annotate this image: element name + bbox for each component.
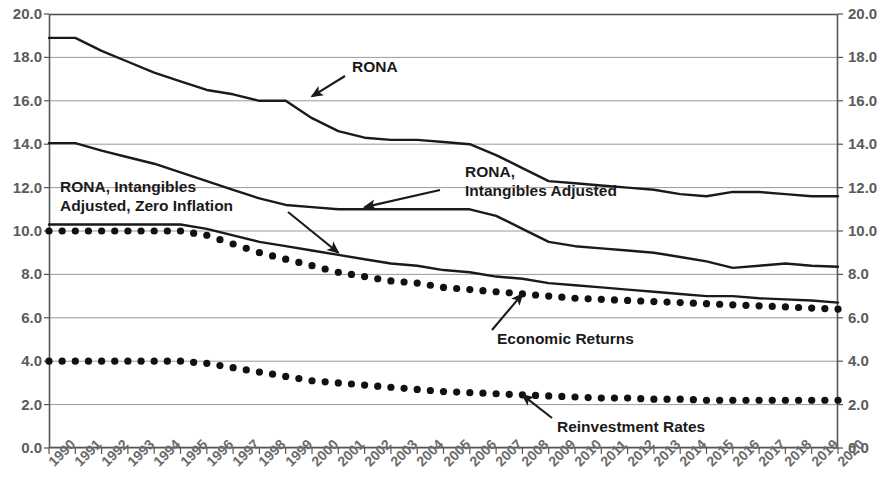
annotation-arrows bbox=[288, 76, 552, 418]
data-point bbox=[716, 397, 723, 404]
y-axis-left-tick-label: 10.0 bbox=[0, 222, 42, 239]
y-axis-right-tick-label: 18.0 bbox=[848, 48, 886, 65]
data-point bbox=[361, 273, 368, 280]
data-point bbox=[466, 286, 473, 293]
y-axis-right-tick-label: 20.0 bbox=[848, 5, 886, 22]
data-point bbox=[703, 300, 710, 307]
data-point bbox=[493, 288, 500, 295]
data-point bbox=[440, 284, 447, 291]
y-axis-left-tick-label: 18.0 bbox=[0, 48, 42, 65]
data-point bbox=[308, 377, 315, 384]
data-point bbox=[545, 293, 552, 300]
data-point bbox=[216, 236, 223, 243]
data-point bbox=[269, 371, 276, 378]
data-point bbox=[624, 394, 631, 401]
data-point bbox=[821, 397, 828, 404]
data-point bbox=[85, 227, 92, 234]
y-axis-left-tick-label: 12.0 bbox=[0, 179, 42, 196]
data-point bbox=[795, 304, 802, 311]
data-point bbox=[624, 297, 631, 304]
data-point bbox=[795, 397, 802, 404]
y-axis-right-tick-label: 8.0 bbox=[848, 265, 886, 282]
data-point bbox=[400, 278, 407, 285]
data-point bbox=[177, 227, 184, 234]
data-point bbox=[729, 397, 736, 404]
data-point bbox=[137, 358, 144, 365]
data-point bbox=[387, 277, 394, 284]
data-point bbox=[124, 358, 131, 365]
y-axis-left-tick-label: 6.0 bbox=[0, 309, 42, 326]
data-point bbox=[124, 227, 131, 234]
data-point bbox=[769, 303, 776, 310]
data-point bbox=[808, 397, 815, 404]
data-point bbox=[506, 391, 513, 398]
data-point bbox=[216, 362, 223, 369]
data-point bbox=[637, 395, 644, 402]
data-point bbox=[834, 397, 841, 404]
data-point bbox=[663, 298, 670, 305]
data-point bbox=[230, 364, 237, 371]
chart-root: 0.02.04.06.08.010.012.014.016.018.020.0 … bbox=[0, 0, 886, 502]
data-point bbox=[611, 296, 618, 303]
data-point bbox=[637, 297, 644, 304]
data-point bbox=[98, 358, 105, 365]
data-point bbox=[85, 358, 92, 365]
data-point bbox=[769, 397, 776, 404]
y-axis-left-tick-label: 14.0 bbox=[0, 135, 42, 152]
annotation-arrow-rona-intangibles-adjusted-zero-inflation bbox=[288, 212, 338, 253]
series-rona bbox=[49, 38, 838, 196]
data-point bbox=[611, 394, 618, 401]
data-point bbox=[571, 393, 578, 400]
annotation-line: Reinvestment Rates bbox=[557, 418, 705, 437]
data-point bbox=[256, 249, 263, 256]
data-point bbox=[151, 358, 158, 365]
data-point bbox=[690, 300, 697, 307]
data-point bbox=[716, 301, 723, 308]
data-point bbox=[414, 386, 421, 393]
annotation-line: RONA bbox=[352, 58, 398, 77]
data-point bbox=[308, 262, 315, 269]
annotation-label-rona-intangibles-adjusted-zero-inflation: RONA, IntangiblesAdjusted, Zero Inflatio… bbox=[60, 178, 233, 216]
annotation-line: RONA, Intangibles bbox=[60, 178, 233, 197]
data-point bbox=[243, 245, 250, 252]
data-point bbox=[98, 227, 105, 234]
data-point bbox=[322, 265, 329, 272]
data-point bbox=[59, 227, 66, 234]
series-reinvestment-rates bbox=[45, 358, 841, 404]
data-point bbox=[427, 387, 434, 394]
data-point bbox=[571, 295, 578, 302]
data-point bbox=[440, 388, 447, 395]
data-point bbox=[782, 397, 789, 404]
y-axis-left-tick-label: 4.0 bbox=[0, 352, 42, 369]
annotation-label-rona-intangibles-adjusted: RONA,Intangibles Adjusted bbox=[447, 163, 617, 201]
y-axis-right-tick-label: 4.0 bbox=[848, 352, 886, 369]
annotation-arrow-economic-returns bbox=[492, 294, 522, 330]
data-point bbox=[677, 299, 684, 306]
annotation-label-reinvestment-rates: Reinvestment Rates bbox=[557, 418, 705, 437]
annotation-arrow-rona-intangibles-adjusted bbox=[365, 190, 440, 207]
data-point bbox=[45, 358, 52, 365]
data-point bbox=[151, 227, 158, 234]
data-point bbox=[348, 271, 355, 278]
data-point bbox=[256, 368, 263, 375]
data-point bbox=[190, 230, 197, 237]
annotation-line: Adjusted, Zero Inflation bbox=[60, 197, 233, 216]
data-point bbox=[506, 289, 513, 296]
data-point bbox=[690, 396, 697, 403]
data-point bbox=[782, 303, 789, 310]
data-point bbox=[414, 279, 421, 286]
y-axis-left-tick-label: 20.0 bbox=[0, 5, 42, 22]
data-point bbox=[335, 269, 342, 276]
data-point bbox=[348, 380, 355, 387]
data-point bbox=[742, 302, 749, 309]
data-point bbox=[295, 375, 302, 382]
data-point bbox=[137, 227, 144, 234]
data-point bbox=[111, 227, 118, 234]
data-point bbox=[545, 392, 552, 399]
annotation-arrow-rona bbox=[312, 76, 345, 96]
data-point bbox=[756, 397, 763, 404]
data-point bbox=[808, 304, 815, 311]
annotation-line: RONA, bbox=[447, 163, 617, 182]
data-point bbox=[269, 252, 276, 259]
y-axis-right-tick-label: 6.0 bbox=[848, 309, 886, 326]
